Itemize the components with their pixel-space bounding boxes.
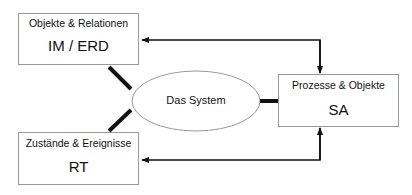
- box-sa-title: Prozesse & Objekte: [278, 79, 399, 91]
- box-im-erd-label: IM / ERD: [18, 37, 139, 54]
- center-label: Das System: [132, 94, 260, 106]
- box-im-erd-title: Objekte & Relationen: [18, 17, 139, 29]
- box-sa-label: SA: [278, 101, 399, 118]
- arrow-rt-sa: [142, 128, 320, 160]
- connector-rt-system: [109, 110, 131, 131]
- connector-im-system: [109, 67, 131, 89]
- box-rt-title: Zustände & Ereignisse: [18, 137, 139, 149]
- arrow-im-sa: [142, 40, 320, 73]
- box-rt-label: RT: [18, 158, 139, 175]
